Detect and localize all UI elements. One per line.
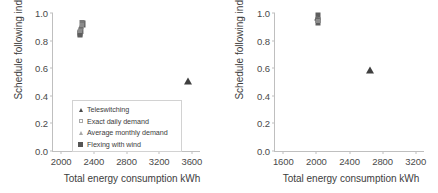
y-axis-title-left: Schedule following index: [13, 0, 24, 115]
x-axis-title-left: Total energy consumption kWh: [52, 173, 212, 184]
x-tick-label: 2400: [83, 151, 104, 167]
y-tick-label: 1.0: [35, 8, 53, 19]
y-tick-label: 0.6: [257, 63, 275, 74]
x-tick-label: 3200: [405, 151, 426, 167]
y-axis-title-right: Schedule following index: [234, 0, 245, 115]
x-axis-title-right: Total energy consumption kWh: [269, 173, 433, 184]
data-point-teleswitching: [184, 77, 192, 84]
data-point: [80, 23, 84, 27]
x-tick-label: 2800: [116, 151, 137, 167]
legend-label: Average monthly demand: [87, 128, 168, 137]
y-tick-label: 0.6: [35, 63, 53, 74]
y-tick-label: 0.2: [257, 118, 275, 129]
x-tick-label: 2000: [306, 151, 327, 167]
legend-item-exact-daily-demand: Exact daily demand: [77, 116, 178, 128]
y-tick-label: 0.4: [35, 90, 53, 101]
square-filled-marker-icon: [77, 142, 84, 147]
triangle-light-marker-icon: [77, 131, 84, 135]
chart-panel-right: Schedule following index Total energy co…: [219, 0, 438, 193]
x-tick-label: 2800: [372, 151, 393, 167]
x-tick-label: 2000: [51, 151, 72, 167]
legend-item-flexing-with-wind: Flexing with wind: [77, 139, 178, 151]
x-tick-label: 3200: [149, 151, 170, 167]
legend-label: Teleswitching: [87, 105, 129, 114]
legend-item-average-monthly-demand: Average monthly demand: [77, 127, 178, 139]
y-tick-label: 0.2: [35, 118, 53, 129]
x-tick-label: 1600: [273, 151, 294, 167]
data-point: [316, 19, 320, 23]
y-tick-label: 0.4: [257, 90, 275, 101]
x-tick-label: 2400: [339, 151, 360, 167]
chart-panel-left: Schedule following index Total energy co…: [0, 0, 219, 193]
legend-item-teleswitching: Teleswitching: [77, 104, 178, 116]
square-open-marker-icon: [77, 119, 84, 123]
plot-area-right: 1.0 0.8 0.6 0.4 0.2 0.0 1600 2000 2400 2…: [274, 13, 424, 152]
x-tick-label: 3600: [181, 151, 202, 167]
two-panel-scatter-figure: Schedule following index Total energy co…: [0, 0, 438, 193]
y-tick-label: 1.0: [257, 8, 275, 19]
data-point-teleswitching: [366, 66, 374, 73]
y-tick-label: 0.8: [35, 35, 53, 46]
chart-legend: Teleswitching Exact daily demand Average…: [72, 100, 182, 152]
y-tick-label: 0.8: [257, 35, 275, 46]
data-point: [78, 29, 82, 33]
triangle-marker-icon: [77, 108, 84, 112]
legend-label: Flexing with wind: [87, 140, 141, 149]
legend-label: Exact daily demand: [87, 117, 149, 126]
